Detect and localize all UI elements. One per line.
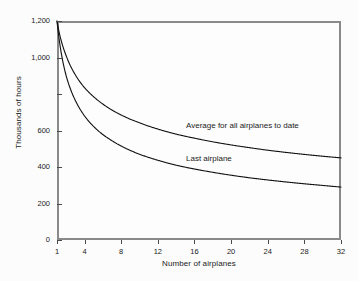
learning-curve-chart: Thousands of hours Number of airplanes 0… (0, 0, 358, 281)
y-tick-label: 600 (0, 126, 50, 135)
x-tick-label: 1 (45, 247, 69, 256)
x-tick-label: 32 (329, 247, 353, 256)
x-tick-label: 4 (73, 247, 97, 256)
x-axis-title: Number of airplanes (57, 259, 341, 268)
x-tick-label: 12 (146, 247, 170, 256)
y-tick-mark (57, 131, 62, 132)
x-tick-label: 28 (292, 247, 316, 256)
series-label-average: Average for all airplanes to date (186, 121, 299, 130)
x-tick-mark (158, 240, 159, 244)
x-tick-mark (121, 240, 122, 244)
x-tick-mark (231, 240, 232, 244)
x-tick-mark (194, 240, 195, 244)
x-tick-label: 20 (219, 247, 243, 256)
x-tick-mark (57, 240, 58, 244)
y-tick-label: 1,000 (0, 53, 50, 62)
y-tick-label: 0 (0, 235, 50, 244)
y-tick-mark (57, 94, 62, 95)
y-tick-label: 200 (0, 199, 50, 208)
y-tick-mark (57, 204, 62, 205)
x-tick-mark (341, 240, 342, 244)
x-tick-mark (304, 240, 305, 244)
y-tick-mark (57, 167, 62, 168)
y-tick-label: 400 (0, 162, 50, 171)
x-tick-label: 24 (256, 247, 280, 256)
y-tick-label: 1,200 (0, 16, 50, 25)
series-label-last-airplane: Last airplane (186, 154, 232, 163)
x-tick-mark (85, 240, 86, 244)
y-tick-mark (57, 21, 62, 22)
x-tick-label: 16 (182, 247, 206, 256)
x-tick-label: 8 (109, 247, 133, 256)
plot-area (57, 21, 341, 240)
x-tick-mark (268, 240, 269, 244)
y-tick-mark (57, 58, 62, 59)
